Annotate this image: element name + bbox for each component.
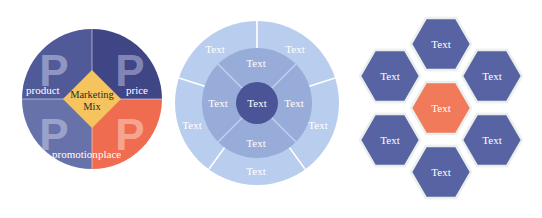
outer-text-lower-left: Text — [182, 119, 201, 131]
inner-text-top: Text — [246, 57, 265, 69]
hex-text-upper-right: Text — [482, 70, 501, 82]
center-label-line1: Marketing — [70, 89, 114, 100]
hex-text-center: Text — [431, 102, 450, 114]
hex-text-lower-right: Text — [482, 134, 501, 146]
center-text: Text — [247, 97, 266, 109]
center-label-line2: Mix — [83, 101, 101, 112]
diagram-canvas: P P P P product price promotion place Ma… — [0, 0, 542, 218]
inner-text-bottom: Text — [246, 137, 265, 149]
label-price: price — [126, 84, 148, 96]
inner-text-right: Text — [284, 97, 303, 109]
hex-text-lower-left: Text — [380, 134, 399, 146]
outer-text-upper-left: Text — [205, 43, 224, 55]
concentric-diagram: Text Text Text Text Text Text Text Text … — [175, 21, 339, 185]
hex-text-upper-left: Text — [380, 70, 399, 82]
outer-text-lower-right: Text — [308, 119, 327, 131]
outer-text-upper-right: Text — [285, 43, 304, 55]
label-product: product — [26, 84, 60, 96]
marketing-mix-diagram: P P P P product price promotion place Ma… — [22, 29, 162, 169]
hex-text-top: Text — [431, 38, 450, 50]
label-place: place — [98, 148, 121, 160]
label-promotion: promotion — [52, 148, 98, 160]
outer-text-bottom: Text — [246, 165, 265, 177]
inner-text-left: Text — [208, 97, 227, 109]
hex-text-bottom: Text — [431, 166, 450, 178]
